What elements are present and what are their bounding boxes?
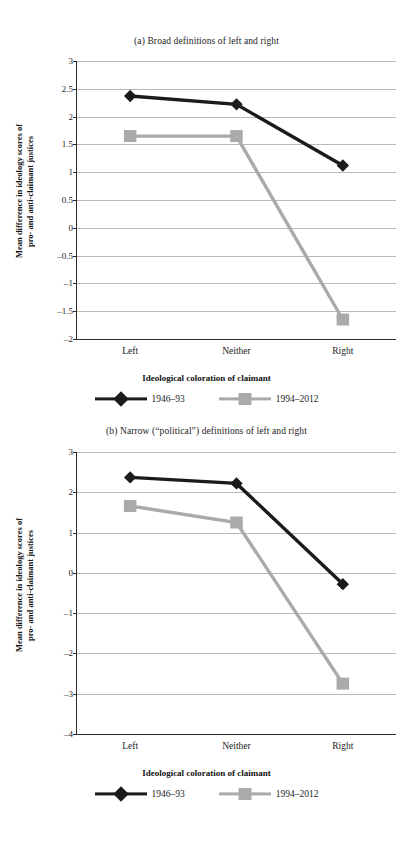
y-axis-tick-label: 2 bbox=[69, 112, 74, 121]
y-axis-tick-label: 3 bbox=[69, 57, 74, 66]
chart-a-x-axis-title: Ideological coloration of claimant bbox=[0, 373, 413, 383]
y-axis-title-line2: pro- and anti-claimant justices bbox=[25, 135, 35, 246]
y-axis-title-line1: Mean difference in ideology scores of bbox=[14, 518, 24, 652]
y-tick-mark bbox=[73, 734, 77, 735]
y-axis-tick-label: 1 bbox=[69, 528, 74, 537]
series-line-1994–2012 bbox=[130, 506, 343, 684]
y-axis-title-line2: pro- and anti-claimant justices bbox=[25, 529, 35, 640]
chart-b-legend: 1946–931994–2012 bbox=[0, 785, 413, 803]
diamond-marker bbox=[95, 788, 147, 800]
legend-item-2[interactable]: 1994–2012 bbox=[219, 788, 319, 800]
y-axis-tick-label: 2.5 bbox=[62, 84, 73, 93]
legend-marker bbox=[113, 391, 129, 407]
diamond-marker bbox=[95, 393, 147, 405]
y-axis-tick-label: 1.5 bbox=[62, 140, 73, 149]
y-axis-tick-label: –2 bbox=[64, 649, 73, 658]
y-axis-title-line1: Mean difference in ideology scores of bbox=[14, 124, 24, 258]
series-line-1994–2012 bbox=[130, 136, 343, 319]
chart-a-title: (a) Broad definitions of left and right bbox=[0, 36, 413, 46]
y-axis-tick-label: 3 bbox=[69, 448, 74, 457]
y-tick-mark bbox=[73, 339, 77, 340]
legend-item-2[interactable]: 1994–2012 bbox=[219, 393, 319, 405]
figure-root: (a) Broad definitions of left and right … bbox=[0, 0, 413, 841]
data-point-marker bbox=[124, 130, 137, 142]
legend-label: 1946–93 bbox=[152, 789, 185, 799]
y-axis-tick-label: 0.5 bbox=[62, 196, 73, 205]
y-axis-tick-label: –1 bbox=[64, 609, 73, 618]
y-axis-tick-label: 1 bbox=[69, 168, 74, 177]
x-axis-tick-label-right: Right bbox=[332, 741, 353, 751]
data-point-marker bbox=[124, 500, 137, 512]
square-marker bbox=[219, 788, 271, 800]
legend-marker bbox=[113, 786, 129, 802]
y-axis-tick-label: –1 bbox=[64, 279, 73, 288]
chart-a-legend: 1946–931994–2012 bbox=[0, 390, 413, 408]
y-axis-tick-label: –1.5 bbox=[57, 307, 73, 316]
data-point-marker bbox=[337, 314, 350, 326]
legend-item-1[interactable]: 1946–93 bbox=[95, 393, 185, 405]
data-point-marker bbox=[124, 90, 136, 102]
data-point-marker bbox=[230, 517, 243, 529]
y-axis-tick-label: –4 bbox=[64, 730, 73, 739]
x-axis-tick-label-neither: Neither bbox=[222, 346, 251, 356]
data-point-marker bbox=[124, 471, 136, 483]
data-point-marker bbox=[230, 130, 243, 142]
y-axis-tick-label: 0 bbox=[69, 223, 74, 232]
series-layer bbox=[77, 452, 396, 734]
series-line-1946–93 bbox=[130, 477, 343, 584]
chart-panel-a: (a) Broad definitions of left and right … bbox=[0, 0, 413, 420]
series-layer bbox=[77, 61, 396, 339]
y-axis-tick-label: 0 bbox=[69, 568, 74, 577]
chart-b-y-axis-title: Mean difference in ideology scores of pr… bbox=[14, 490, 38, 680]
chart-panel-b: (b) Narrow (“political”) definitions of … bbox=[0, 420, 413, 841]
legend-item-1[interactable]: 1946–93 bbox=[95, 788, 185, 800]
data-point-marker bbox=[337, 678, 350, 690]
y-axis-tick-label: –3 bbox=[64, 689, 73, 698]
square-marker bbox=[219, 393, 271, 405]
x-axis-tick-label-right: Right bbox=[332, 346, 353, 356]
legend-label: 1994–2012 bbox=[276, 789, 319, 799]
x-axis-tick-label-left: Left bbox=[122, 741, 138, 751]
chart-a-y-axis-title: Mean difference in ideology scores of pr… bbox=[14, 96, 38, 286]
y-axis-tick-label: –2 bbox=[64, 335, 73, 344]
legend-label: 1994–2012 bbox=[276, 394, 319, 404]
y-axis-tick-label: –0.5 bbox=[57, 251, 73, 260]
chart-b-title: (b) Narrow (“political”) definitions of … bbox=[0, 426, 413, 436]
legend-marker bbox=[238, 788, 251, 800]
legend-marker bbox=[238, 393, 251, 405]
y-axis-tick-label: 2 bbox=[69, 488, 74, 497]
x-axis-tick-label-left: Left bbox=[122, 346, 138, 356]
chart-b-plot-area: 3210–1–2–3–4LeftNeitherRight bbox=[76, 452, 396, 735]
chart-a-plot-area: 32.521.510.50–0.5–1–1.5–2LeftNeitherRigh… bbox=[76, 61, 396, 340]
x-axis-tick-label-neither: Neither bbox=[222, 741, 251, 751]
chart-b-x-axis-title: Ideological coloration of claimant bbox=[0, 768, 413, 778]
legend-label: 1946–93 bbox=[152, 394, 185, 404]
